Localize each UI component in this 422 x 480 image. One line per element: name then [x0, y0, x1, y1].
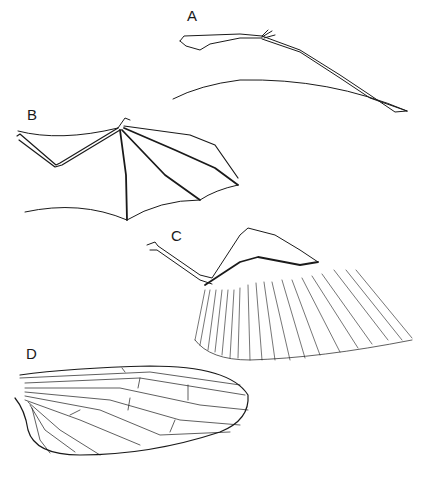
pterosaur-wing-drawing — [173, 30, 407, 112]
bird-wing-drawing — [147, 228, 412, 360]
insect-wing-drawing — [15, 366, 248, 455]
bat-wing-drawing — [17, 118, 238, 220]
wing-illustrations — [0, 0, 422, 480]
